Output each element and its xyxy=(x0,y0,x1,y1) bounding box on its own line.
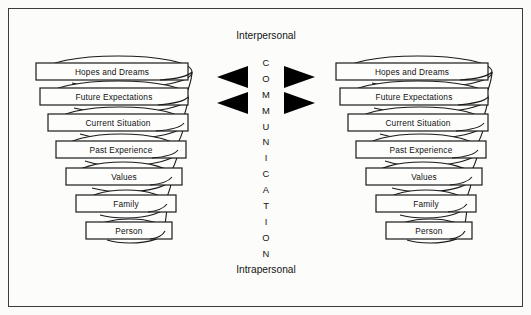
communication-letter-2: O xyxy=(262,74,269,83)
communication-letter-7: I xyxy=(265,153,268,162)
left-tier-label-7: Person xyxy=(86,226,172,236)
left-tier-label-1: Hopes and Dreams xyxy=(36,67,188,77)
right-tier-label-2: Future Expectations xyxy=(340,92,488,102)
communication-letter-10: T xyxy=(263,201,269,210)
right-tier-label-6: Family xyxy=(376,199,476,209)
left-tier-label-5: Values xyxy=(66,172,182,182)
communication-letter-3: M xyxy=(262,90,270,99)
arrow-left-lower xyxy=(217,92,248,114)
right-tier-label-5: Values xyxy=(366,172,482,182)
communication-letter-13: N xyxy=(263,249,270,258)
right-tier-label-3: Current Situation xyxy=(348,118,488,128)
communication-letter-9: A xyxy=(263,185,269,194)
communication-vertical-text: COMMUNICATION xyxy=(250,58,282,258)
left-tier-label-2: Future Expectations xyxy=(40,92,188,102)
communication-spiral-diagram: Hopes and Dreams Future Expectations Cur… xyxy=(0,0,531,315)
communication-letter-1: C xyxy=(263,58,270,67)
communication-letter-4: M xyxy=(262,106,270,115)
intrapersonal-label: Intrapersonal xyxy=(186,264,346,275)
arrow-right-lower xyxy=(284,92,315,114)
right-tier-label-7: Person xyxy=(386,226,472,236)
communication-letter-11: I xyxy=(265,217,268,226)
right-tier-label-4: Past Experience xyxy=(356,145,486,155)
communication-letter-12: O xyxy=(262,233,269,242)
communication-letter-6: N xyxy=(263,137,270,146)
communication-letter-5: U xyxy=(263,122,270,131)
arrow-left-upper xyxy=(217,66,248,88)
diagram-stage: Hopes and Dreams Future Expectations Cur… xyxy=(0,0,531,315)
communication-letter-8: C xyxy=(263,169,270,178)
interpersonal-label: Interpersonal xyxy=(186,30,346,41)
left-tier-label-3: Current Situation xyxy=(48,118,188,128)
right-tier-label-1: Hopes and Dreams xyxy=(336,67,488,77)
left-tier-label-6: Family xyxy=(76,199,176,209)
arrow-right-upper xyxy=(284,66,315,88)
left-tier-label-4: Past Experience xyxy=(56,145,186,155)
